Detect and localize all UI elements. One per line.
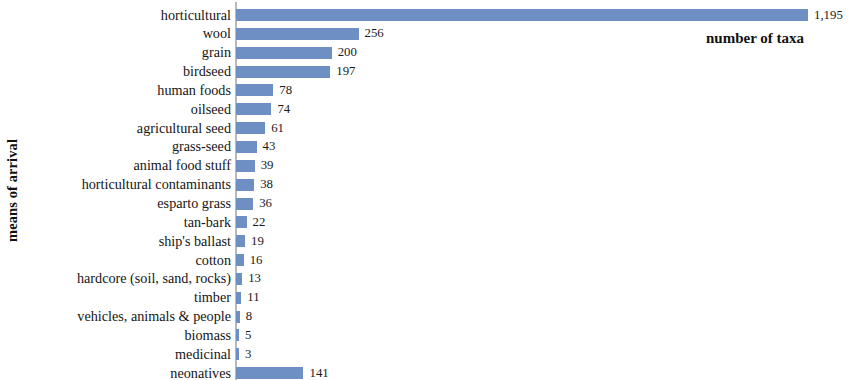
bar-container: 74 [236,100,850,119]
bar-row: esparto grass36 [0,194,850,213]
category-label: ship's ballast [28,232,231,251]
bar [236,273,242,285]
bar-value-label: 3 [245,345,251,364]
bar-row: tan-bark22 [0,213,850,232]
bar-row: biomass5 [0,326,850,345]
bar-container: 13 [236,269,850,288]
bar-container: 5 [236,326,850,345]
y-axis-title: means of arrival [0,0,26,380]
bar-value-label: 19 [251,232,264,251]
bar-row: agricultural seed61 [0,119,850,138]
bar-container: 22 [236,213,850,232]
category-label: grain [28,43,231,62]
category-label: medicinal [28,345,231,364]
plot-area: horticultural1,195wool256grain200birdsee… [0,0,850,380]
bar [236,160,255,172]
bar-value-label: 22 [253,213,266,232]
bar-row: ship's ballast19 [0,232,850,251]
bar-value-label: 61 [271,119,284,138]
category-label: oilseed [28,100,231,119]
bar-value-label: 13 [248,269,261,288]
bar [236,122,265,134]
bar [236,84,273,96]
category-label: tan-bark [28,213,231,232]
bar-container: 8 [236,307,850,326]
category-label: animal food stuff [28,156,231,175]
bar [236,216,247,228]
bar-container: 19 [236,232,850,251]
bar-value-label: 200 [338,43,357,62]
bar-row: vehicles, animals & people8 [0,307,850,326]
bar-value-label: 256 [365,24,384,43]
bar-container: 11 [236,288,850,307]
bar [236,179,254,191]
bar-value-label: 38 [260,175,273,194]
category-label: agricultural seed [28,119,231,138]
bar [236,254,244,266]
bar-value-label: 43 [263,137,276,156]
bar [236,235,245,247]
bar-row: medicinal3 [0,345,850,364]
bar-row: timber11 [0,288,850,307]
bar [236,311,240,323]
bar-value-label: 1,195 [814,6,843,25]
bar-value-label: 36 [259,194,272,213]
bar-chart: horticultural1,195wool256grain200birdsee… [0,0,850,380]
bar-value-label: 11 [247,288,259,307]
bar-container: 16 [236,251,850,270]
category-label: biomass [28,326,231,345]
bar-container: 39 [236,156,850,175]
bar-container: 3 [236,345,850,364]
bar [236,66,330,78]
bar-value-label: 78 [279,81,292,100]
bar-value-label: 5 [245,326,251,345]
category-label: birdseed [28,62,231,81]
category-label: cotton [28,251,231,270]
bar [236,348,239,360]
y-axis-title-text: means of arrival [5,138,22,241]
bar [236,47,332,59]
bar [236,292,241,304]
bar-row: oilseed74 [0,100,850,119]
bar [236,9,808,21]
bar-row: cotton16 [0,251,850,270]
bar-row: hardcore (soil, sand, rocks)13 [0,269,850,288]
bar-value-label: 8 [246,307,252,326]
bar-row: human foods78 [0,81,850,100]
bar [236,28,359,40]
bar-row: horticultural1,195 [0,6,850,25]
bar-container: 43 [236,137,850,156]
category-label: human foods [28,81,231,100]
bar-container: 38 [236,175,850,194]
category-label: esparto grass [28,194,231,213]
bar-value-label: 197 [336,62,355,81]
bar-row: neonatives141 [0,364,850,380]
x-axis-title: number of taxa [660,30,850,47]
category-label: wool [28,24,231,43]
bar-container: 1,195 [236,6,850,25]
category-label: hardcore (soil, sand, rocks) [28,269,231,288]
category-label: grass-seed [28,137,231,156]
bar-row: animal food stuff39 [0,156,850,175]
category-label: horticultural contaminants [28,175,231,194]
category-label: horticultural [28,6,231,25]
bar [236,141,257,153]
category-label: neonatives [28,364,231,380]
bar-value-label: 16 [250,251,263,270]
bar-row: birdseed197 [0,62,850,81]
bar-container: 141 [236,364,850,380]
bar-row: grass-seed43 [0,137,850,156]
bar [236,198,253,210]
bar-value-label: 141 [309,364,328,380]
bar-container: 197 [236,62,850,81]
bar-row: horticultural contaminants38 [0,175,850,194]
category-label: vehicles, animals & people [28,307,231,326]
category-label: timber [28,288,231,307]
bar-container: 61 [236,119,850,138]
bar-value-label: 74 [277,100,290,119]
bar [236,329,239,341]
bar [236,103,271,115]
bar-container: 78 [236,81,850,100]
bar-value-label: 39 [261,156,274,175]
bar [236,367,303,379]
